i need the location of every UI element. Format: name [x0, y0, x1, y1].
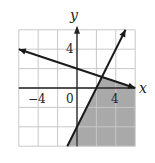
- x-axis-label: x: [139, 80, 147, 96]
- inequality-graph: y x −4 0 4 4: [0, 0, 155, 163]
- x-tick-label-0: 0: [66, 92, 74, 106]
- y-tick-label-4: 4: [66, 42, 74, 56]
- arrowhead-icon: [19, 48, 27, 54]
- x-tick-label-4: 4: [111, 92, 119, 106]
- y-axis-label: y: [69, 7, 79, 23]
- arrowhead-icon: [128, 83, 136, 89]
- x-tick-label-neg4: −4: [28, 92, 46, 106]
